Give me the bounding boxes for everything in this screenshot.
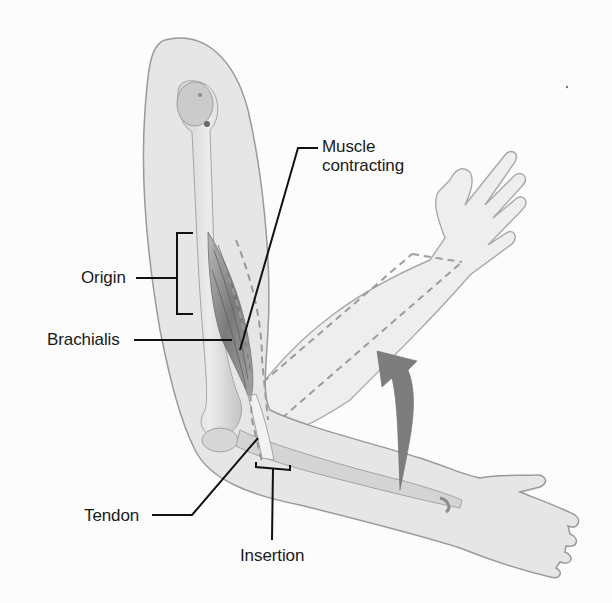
label-tendon: Tendon — [84, 506, 139, 525]
raised-forearm — [250, 151, 526, 435]
leader-insertion — [272, 468, 273, 540]
label-insertion: Insertion — [240, 546, 304, 565]
speck — [566, 86, 568, 88]
label-brachialis: Brachialis — [47, 330, 120, 349]
label-origin: Origin — [81, 268, 126, 287]
diagram-canvas: Muscle contracting Origin Brachialis Ten… — [0, 0, 612, 603]
label-muscle-contracting: Muscle contracting — [322, 137, 404, 175]
